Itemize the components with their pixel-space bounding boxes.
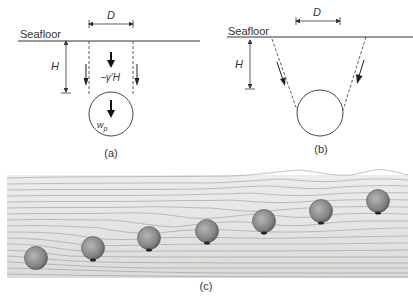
caption-a: (a) — [104, 147, 117, 159]
pipe-weight-label: wp — [97, 120, 107, 132]
pipe-weight-arrow-icon — [107, 100, 115, 118]
panel-c-photo — [7, 170, 408, 278]
width-label-a: D — [107, 9, 115, 21]
shear-arrow-left-icon — [84, 64, 89, 86]
shear-arrow-right-icon — [356, 60, 364, 84]
width-label-b: D — [313, 6, 321, 18]
soil-load-arrow-icon — [107, 52, 115, 68]
pipe-circle — [297, 90, 343, 136]
seafloor-label-b: Seafloor — [228, 25, 269, 37]
seafloor-label-a: Seafloor — [20, 28, 61, 40]
failure-wedge-left — [272, 39, 297, 110]
shear-arrow-right-icon — [135, 64, 140, 86]
pipe-photo-1 — [25, 247, 48, 270]
caption-c: (c) — [200, 280, 213, 292]
caption-b: (b) — [314, 143, 327, 155]
soil-load-label: −γ′H — [100, 72, 120, 83]
depth-label-a: H — [51, 60, 59, 72]
failure-wedge-right — [343, 37, 366, 110]
depth-label-b: H — [235, 58, 243, 70]
diagram-canvas — [0, 0, 413, 297]
